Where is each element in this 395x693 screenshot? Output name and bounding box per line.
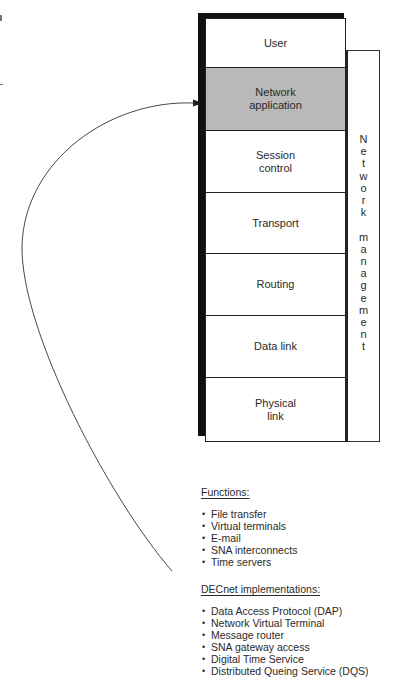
- letter: o: [348, 182, 379, 194]
- letter: g: [348, 279, 379, 291]
- implementations-title: DECnet implementations:: [201, 583, 320, 595]
- list-item: Distributed Queing Service (DQS): [201, 666, 369, 678]
- letter: e: [348, 145, 379, 157]
- protocol-stack: User Network application Session control…: [205, 18, 346, 442]
- implementations-list: Data Access Protocol (DAP) Network Virtu…: [201, 606, 369, 677]
- letter: r: [348, 194, 379, 206]
- page-edge-mark: [0, 15, 2, 21]
- functions-title: Functions:: [201, 486, 249, 498]
- layer-label: Transport: [252, 217, 299, 230]
- list-item: SNA interconnects: [201, 545, 297, 557]
- letter: m: [348, 231, 379, 243]
- layer-label: Session control: [256, 149, 295, 175]
- letter: a: [348, 243, 379, 255]
- list-item: E-mail: [201, 533, 297, 545]
- letter: n: [348, 328, 379, 340]
- letter: m: [348, 304, 379, 316]
- letter: t: [348, 157, 379, 169]
- layer-transport: Transport: [206, 193, 345, 254]
- letter: a: [348, 267, 379, 279]
- layer-label: Physical link: [255, 397, 296, 423]
- layer-data-link: Data link: [206, 316, 345, 378]
- page-edge-mark: [0, 84, 3, 85]
- list-item: Digital Time Service: [201, 654, 369, 666]
- layer-label: Network application: [249, 86, 302, 112]
- letter: N: [348, 133, 379, 145]
- list-item: Time servers: [201, 557, 297, 569]
- list-item: Message router: [201, 630, 369, 642]
- letter: n: [348, 255, 379, 267]
- letter: k: [348, 206, 379, 218]
- layer-session-control: Session control: [206, 131, 345, 193]
- layer-label: Routing: [257, 278, 295, 291]
- layer-network-application: Network application: [206, 68, 345, 131]
- network-management-column: N e t w o r k m a n a g e m e n t: [346, 50, 380, 442]
- layer-physical-link: Physical link: [206, 378, 345, 441]
- letter-gap: [348, 218, 379, 230]
- layer-routing: Routing: [206, 254, 345, 316]
- list-item: SNA gateway access: [201, 642, 369, 654]
- functions-list: File transfer Virtual terminals E-mail S…: [201, 509, 297, 569]
- letter: w: [348, 170, 379, 182]
- layer-label: User: [264, 37, 287, 50]
- letter: t: [348, 340, 379, 352]
- layer-label: Data link: [254, 340, 297, 353]
- network-management-label: N e t w o r k m a n a g e m e n t: [348, 133, 379, 353]
- letter: e: [348, 316, 379, 328]
- layer-user: User: [206, 19, 345, 68]
- letter: e: [348, 292, 379, 304]
